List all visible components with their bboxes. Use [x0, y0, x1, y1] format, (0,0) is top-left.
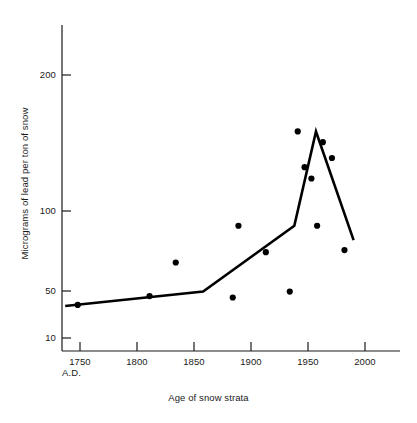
x-tick-label-2000: 2000 — [340, 356, 390, 367]
trend-line — [65, 131, 353, 305]
data-point — [146, 293, 152, 299]
data-point — [341, 247, 347, 253]
data-point — [308, 175, 314, 181]
x-tick-label-1850: 1850 — [169, 356, 219, 367]
x-tick-marks — [80, 342, 365, 351]
data-point — [173, 259, 179, 265]
y-axis-title: Micrograms of lead per ton of snow — [19, 84, 30, 284]
data-point — [295, 128, 301, 134]
data-point — [329, 155, 335, 161]
data-point — [263, 249, 269, 255]
x-tick-label-1800: 1800 — [112, 356, 162, 367]
x-tick-label-1900: 1900 — [226, 356, 276, 367]
y-tick-label-50: 50 — [18, 285, 56, 296]
data-point — [287, 288, 293, 294]
y-tick-label-200: 200 — [18, 69, 56, 80]
scatter-points-group — [75, 128, 348, 308]
data-point — [314, 223, 320, 229]
y-tick-marks — [62, 75, 71, 338]
x-tick-label-1950: 1950 — [283, 356, 333, 367]
x-axis-title: Age of snow strata — [0, 392, 417, 403]
x-tick-label-1750: 1750 — [55, 356, 105, 367]
era-label: A.D. — [62, 367, 81, 378]
data-point — [301, 164, 307, 170]
data-point — [235, 223, 241, 229]
data-point — [75, 302, 81, 308]
y-tick-label-10: 10 — [18, 332, 56, 343]
chart-container: 2001005010 175018001850190019502000 A.D.… — [0, 0, 417, 423]
data-point — [320, 139, 326, 145]
data-point — [230, 294, 236, 300]
